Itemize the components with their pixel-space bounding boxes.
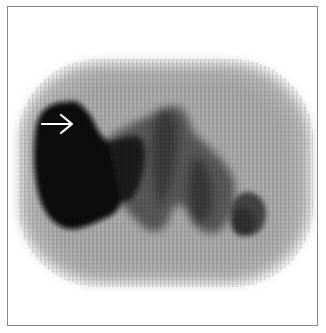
image-frame (7, 6, 318, 326)
scan-image (8, 7, 318, 326)
arrow-right-icon (41, 113, 75, 135)
